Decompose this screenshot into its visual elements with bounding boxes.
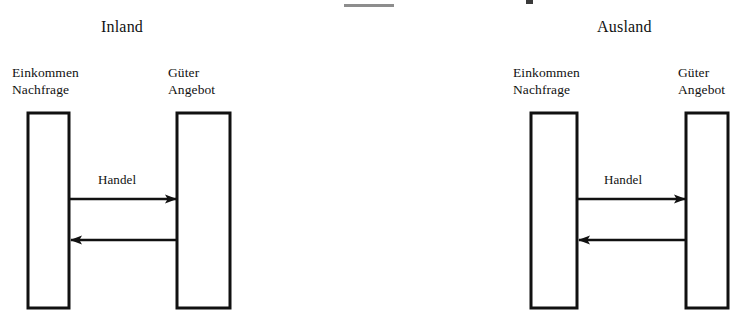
group-title-ausland: Ausland [597,17,652,37]
node-box-inland-einkommen [28,113,69,308]
node-label-line1: Einkommen [12,65,79,80]
node-label-inland-einkommen: EinkommenNachfrage [12,64,79,99]
edge-label-inland-handel: Handel [98,172,136,189]
node-label-line1: Einkommen [513,65,580,80]
node-label-line1: Güter [678,65,709,80]
node-label-inland-gueter: GüterAngebot [168,64,215,99]
diagram-shapes [0,0,746,330]
node-label-ausland-einkommen: EinkommenNachfrage [513,64,580,99]
node-label-line2: Nachfrage [12,82,69,97]
node-box-ausland-gueter [686,113,728,308]
node-box-ausland-einkommen [531,113,577,308]
node-label-line2: Nachfrage [513,82,570,97]
node-label-ausland-gueter: GüterAngebot [678,64,725,99]
diagram-canvas: Inland EinkommenNachfrage GüterAngebot H… [0,0,746,330]
node-label-line2: Angebot [678,82,725,97]
group-title-inland: Inland [101,17,143,37]
group-ausland-shapes [531,113,728,308]
group-inland-shapes [28,113,230,308]
node-box-inland-gueter [177,113,230,308]
node-label-line2: Angebot [168,82,215,97]
node-label-line1: Güter [168,65,199,80]
edge-label-ausland-handel: Handel [604,172,642,189]
